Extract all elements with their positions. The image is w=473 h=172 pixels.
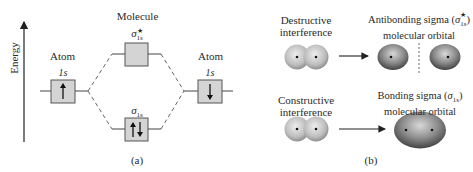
bonding-level (112, 118, 161, 141)
left-atom-1s-level (40, 80, 88, 103)
destructive-overlapping-spheres (285, 45, 329, 70)
antibonding-level (112, 43, 161, 66)
antibonding-orbital-lobes (378, 43, 461, 73)
left-1s-label: 1s (53, 67, 73, 79)
antibonding-orbital-label: Antibonding sigma (σ★1s) molecular orbit… (365, 14, 473, 42)
right-atom-1s-level (184, 80, 233, 103)
left-atom-label: Atom (40, 50, 85, 62)
antibonding-symbol-label: σ★1s (126, 27, 148, 44)
destructive-interference-label: Destructive interference (270, 14, 342, 38)
molecule-label: Molecule (100, 10, 175, 22)
panel-b-caption: (b) (360, 154, 382, 166)
energy-axis-label: Energy (8, 36, 20, 80)
bonding-orbital-label: Bonding sigma (σ1s) molecular orbital (370, 90, 470, 118)
right-atom-label: Atom (188, 50, 233, 62)
constructive-interference-label: Constructive interference (270, 94, 342, 118)
panel-a-caption: (a) (126, 154, 148, 166)
constructive-overlapping-spheres (285, 117, 329, 142)
right-1s-label: 1s (200, 67, 220, 79)
bonding-symbol-label: σ1s (126, 104, 148, 121)
